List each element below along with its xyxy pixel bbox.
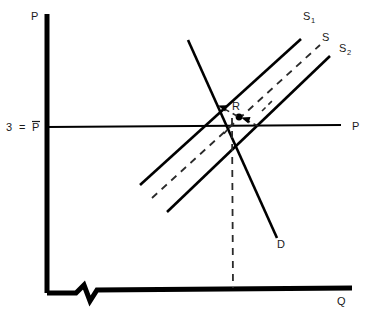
equilibrium-dropline [232,118,233,288]
y-axis-label: P [31,10,38,22]
curve-label-d: D [277,238,285,250]
annotation-label-r: R [232,100,240,112]
curve-label-s1-subscript: 1 [311,16,315,25]
x-axis-label: Q [337,295,346,307]
supply-curve-s2 [167,56,330,212]
x-axis [47,285,352,301]
curve-label-s1-text: S [303,10,310,22]
r-arrow-upper-tick [262,101,272,111]
price-line-left-label: 3 = P [6,121,40,133]
curve-label-s2: S 2 [339,42,351,57]
r-point-dot [236,114,243,121]
curve-label-s2-text: S [339,42,346,54]
curve-label-s1: S 1 [303,10,315,25]
price-line-right-label: P [352,120,359,132]
price-label-number: 3 [6,121,12,133]
curve-label-s2-subscript: 2 [347,48,351,57]
curve-label-s: S [322,31,329,43]
r-arrow-right-head [241,117,251,124]
curve-label-s-text: S [322,31,329,43]
price-label-equals: = [19,121,25,133]
supply-curve-s [152,45,320,198]
price-line-pbar [47,125,341,127]
demand-curve-d [188,40,277,238]
price-label-pbar: P [32,121,39,133]
supply-demand-figure: P Q 3 = P P S 1 S S 2 D R [0,0,377,317]
